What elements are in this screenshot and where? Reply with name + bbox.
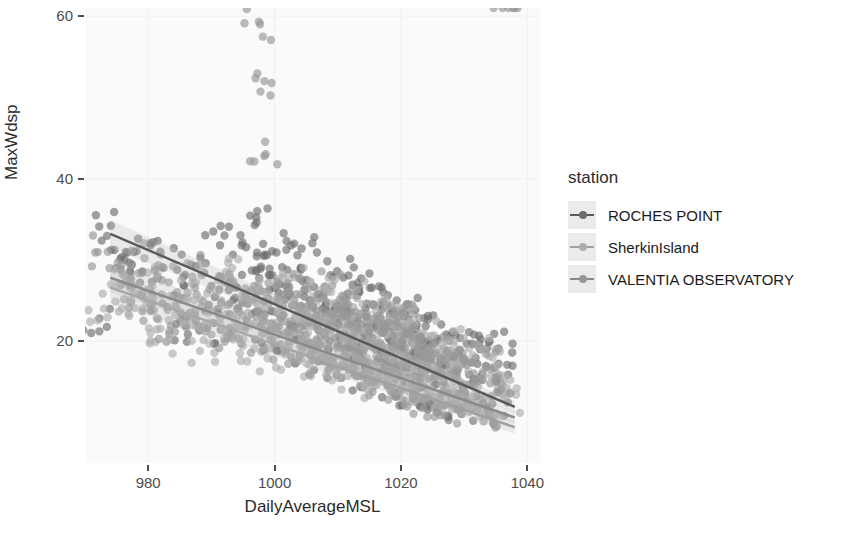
legend-title: station: [568, 168, 838, 188]
legend-items: ROCHES POINTSherkinIslandVALENTIA OBSERV…: [568, 200, 838, 294]
legend-key-point: [579, 275, 587, 283]
y-tick-label: 40: [56, 171, 73, 186]
x-tick-label: 1020: [384, 475, 417, 490]
y-tick-mark: [78, 15, 84, 17]
legend-key-icon: [568, 265, 596, 293]
legend-key-icon: [568, 233, 596, 261]
x-axis-title: DailyAverageMSL: [85, 497, 540, 517]
legend-key-point: [579, 211, 587, 219]
y-tick-mark: [78, 340, 84, 342]
legend-item[interactable]: SherkinIsland: [568, 232, 838, 262]
x-tick-label: 1040: [511, 475, 544, 490]
x-tick-label: 980: [136, 475, 161, 490]
x-tick-mark: [147, 465, 149, 471]
legend-item[interactable]: ROCHES POINT: [568, 200, 838, 230]
x-tick-label: 1000: [258, 475, 291, 490]
scatter-canvas: [85, 8, 540, 463]
legend-item-label: SherkinIsland: [608, 239, 699, 256]
legend-key-icon: [568, 201, 596, 229]
chart-figure: MaxWdsp DailyAverageMSL station ROCHES P…: [0, 0, 849, 537]
legend: station ROCHES POINTSherkinIslandVALENTI…: [568, 168, 838, 296]
y-tick-mark: [78, 178, 84, 180]
x-tick-mark: [274, 465, 276, 471]
x-tick-mark: [400, 465, 402, 471]
x-tick-mark: [526, 465, 528, 471]
legend-item-label: ROCHES POINT: [608, 207, 722, 224]
series-points: [88, 8, 522, 432]
legend-key-point: [579, 243, 587, 251]
y-tick-label: 20: [56, 333, 73, 348]
legend-item-label: VALENTIA OBSERVATORY: [608, 271, 794, 288]
legend-item[interactable]: VALENTIA OBSERVATORY: [568, 264, 838, 294]
plot-panel: [85, 8, 540, 463]
y-axis-title: MaxWdsp: [2, 104, 22, 180]
y-tick-label: 60: [56, 8, 73, 23]
